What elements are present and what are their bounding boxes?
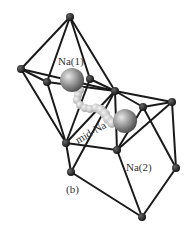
mid-na-label: mid-Na — [73, 118, 108, 145]
na2-atom — [113, 109, 137, 133]
na1-atom — [60, 68, 84, 92]
crystal-structure-diagram: Na(1) Na(2) mid-Na (b) — [0, 0, 194, 243]
polyhedron-edges — [21, 17, 176, 217]
na1-label: Na(1) — [58, 55, 84, 68]
panel-label: (b) — [66, 183, 79, 196]
na2-label: Na(2) — [126, 161, 152, 174]
